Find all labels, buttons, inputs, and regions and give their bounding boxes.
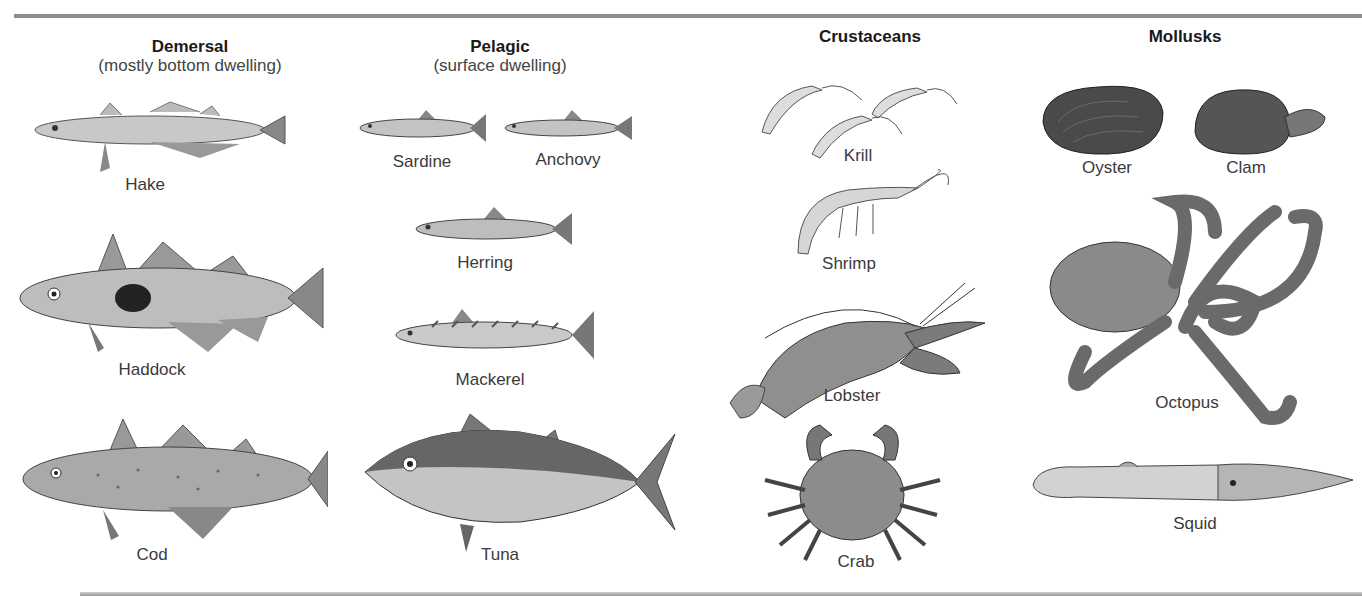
column-subtitle-demersal: (mostly bottom dwelling) xyxy=(50,56,330,76)
label-herring: Herring xyxy=(457,253,513,273)
tuna-illustration xyxy=(360,412,685,552)
label-oyster: Oyster xyxy=(1082,158,1132,178)
mackerel-illustration xyxy=(392,305,597,365)
label-squid: Squid xyxy=(1173,514,1216,534)
column-title-crustaceans: Crustaceans xyxy=(760,27,980,47)
label-octopus: Octopus xyxy=(1155,393,1218,413)
column-subtitle-pelagic: (surface dwelling) xyxy=(390,56,610,76)
label-hake: Hake xyxy=(125,175,165,195)
bottom-divider xyxy=(80,592,1362,596)
label-haddock: Haddock xyxy=(118,360,185,380)
label-clam: Clam xyxy=(1226,158,1266,178)
label-shrimp: Shrimp xyxy=(822,254,876,274)
squid-illustration xyxy=(1028,455,1358,510)
label-cod: Cod xyxy=(136,545,167,565)
label-crab: Crab xyxy=(838,552,875,572)
label-sardine: Sardine xyxy=(393,152,452,172)
hake-illustration xyxy=(30,100,290,175)
shrimp-illustration xyxy=(788,168,958,258)
top-divider xyxy=(14,14,1362,18)
anchovy-illustration xyxy=(502,108,634,148)
clam-illustration xyxy=(1190,82,1330,157)
herring-illustration xyxy=(414,205,574,253)
label-tuna: Tuna xyxy=(481,545,519,565)
label-krill: Krill xyxy=(844,146,872,166)
haddock-illustration xyxy=(18,232,328,352)
crab-illustration xyxy=(760,420,945,565)
label-mackerel: Mackerel xyxy=(456,370,525,390)
sardine-illustration xyxy=(358,108,488,148)
column-title-demersal: Demersal xyxy=(80,37,300,57)
label-anchovy: Anchovy xyxy=(535,150,600,170)
column-title-pelagic: Pelagic xyxy=(390,37,610,57)
column-title-mollusks: Mollusks xyxy=(1075,27,1295,47)
oyster-illustration xyxy=(1038,82,1168,157)
cod-illustration xyxy=(18,415,328,540)
label-lobster: Lobster xyxy=(824,386,881,406)
